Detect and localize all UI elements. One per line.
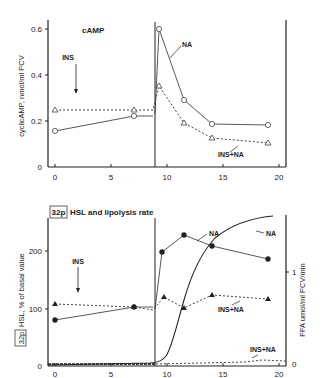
hsl-chart: 200 100 0 1 0 0 5 10 15 20 32p HSL, % of… xyxy=(15,206,307,378)
bottom-y-label: HSL, % of basal value xyxy=(17,253,26,327)
bottom-xtick-20: 20 xyxy=(275,370,284,378)
top-xtick-10: 10 xyxy=(163,173,172,182)
bottom-title-isotope: 32p xyxy=(52,208,66,217)
figure: 0.6 0.4 0.2 0 0 5 10 15 20 cyclicAMP, nm… xyxy=(0,0,321,378)
bottom-series-hsl-na-pre xyxy=(55,307,153,320)
bottom-ffa-na-label: NA xyxy=(266,230,276,237)
top-ytick-0: 0 xyxy=(38,163,43,172)
right-ytick-1: 1 xyxy=(292,268,297,277)
top-xtick-20: 20 xyxy=(275,173,284,182)
bottom-ytick-0: 0 xyxy=(38,362,43,371)
bottom-ins-label: INS xyxy=(72,258,84,265)
bottom-y-label-isotope: 32p xyxy=(17,332,26,345)
bottom-ytick-100: 100 xyxy=(29,305,43,314)
bottom-xtick-0: 0 xyxy=(53,370,58,378)
top-y-label: cyclicAMP, nmol/ml PCV xyxy=(17,55,26,137)
bottom-series-ffa-na xyxy=(48,216,273,365)
top-ytick-0.2: 0.2 xyxy=(31,117,43,126)
bottom-xtick-5: 5 xyxy=(109,370,114,378)
top-ytick-0.6: 0.6 xyxy=(31,25,43,34)
top-xtick-0: 0 xyxy=(53,173,58,182)
top-series-ins-na xyxy=(55,86,268,143)
top-ins-na-markers xyxy=(52,83,271,145)
top-xtick-5: 5 xyxy=(109,173,114,182)
bottom-hsl-ins-na-label: INS+NA xyxy=(218,306,244,313)
bottom-title: HSL and lipolysis rate xyxy=(70,208,154,217)
bottom-right-y-label: FFA umol/ml PCV/min xyxy=(298,263,307,336)
top-xtick-15: 15 xyxy=(219,173,228,182)
camp-chart: 0.6 0.4 0.2 0 0 5 10 15 20 cyclicAMP, nm… xyxy=(17,20,286,182)
top-ins-label: INS xyxy=(62,54,74,61)
top-series-na-pre xyxy=(55,116,153,131)
top-ins-na-label: INS+NA xyxy=(218,151,244,158)
top-series-na xyxy=(155,29,268,125)
right-ytick-0: 0 xyxy=(292,360,297,369)
bottom-ytick-200: 200 xyxy=(29,247,43,256)
top-na-markers xyxy=(52,26,270,133)
bottom-xtick-10: 10 xyxy=(163,370,172,378)
bottom-ffa-ins-na-label: INS+NA xyxy=(250,346,276,353)
top-ytick-0.4: 0.4 xyxy=(31,71,43,80)
top-title: cAMP xyxy=(82,26,105,35)
bottom-xtick-15: 15 xyxy=(219,370,228,378)
bottom-hsl-na-label: NA xyxy=(209,230,219,237)
top-na-label: NA xyxy=(182,41,192,48)
